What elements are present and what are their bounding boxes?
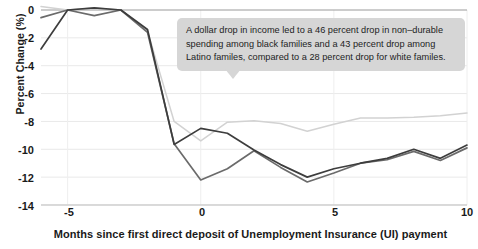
y-tick-label-0: 0	[4, 4, 34, 16]
annotation-callout-tail	[225, 69, 241, 79]
y-tick-label-2: -4	[4, 60, 34, 72]
y-tick-label-1: -2	[4, 32, 34, 44]
y-tick-label-3: -6	[4, 88, 34, 100]
x-tick-label-1: 0	[182, 206, 222, 218]
y-tick-label-5: -10	[4, 144, 34, 156]
annotation-line-1: A dollar drop in income led to a 46 perc…	[186, 25, 443, 35]
x-axis-label: Months since first direct deposit of Une…	[38, 228, 463, 240]
y-tick-label-7: -14	[4, 200, 34, 212]
annotation-callout: A dollar drop in income led to a 46 perc…	[177, 18, 465, 71]
x-tick-label-0: -5	[49, 206, 89, 218]
y-tick-label-6: -12	[4, 172, 34, 184]
annotation-line-2: spending among black families and a 43 p…	[186, 39, 435, 49]
x-tick-label-3: 10	[447, 206, 478, 218]
y-tick-label-4: -8	[4, 116, 34, 128]
x-tick-label-2: 5	[315, 206, 355, 218]
annotation-line-3: Latino familes, compared to a 28 percent…	[186, 52, 446, 62]
